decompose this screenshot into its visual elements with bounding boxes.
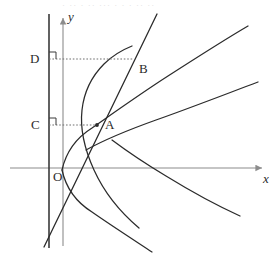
y-axis-label: y <box>68 10 74 23</box>
point-label-c: C <box>31 118 40 131</box>
geometry-figure: · ·· · ·· ··· · · · ·· ·· <box>0 0 276 256</box>
inner-parabola <box>82 46 140 228</box>
right-angle-marker-d <box>49 52 56 59</box>
point-label-b: B <box>139 62 148 75</box>
figure-canvas <box>0 0 276 256</box>
point-label-d: D <box>30 52 39 65</box>
right-angle-marker-c <box>49 118 56 125</box>
origin-label: O <box>53 170 62 183</box>
secant-line-AB <box>44 14 157 247</box>
point-label-a: A <box>105 118 114 131</box>
second-parabola-lower <box>112 140 240 216</box>
point-a-dot <box>95 123 99 127</box>
x-axis-label: x <box>263 172 269 185</box>
